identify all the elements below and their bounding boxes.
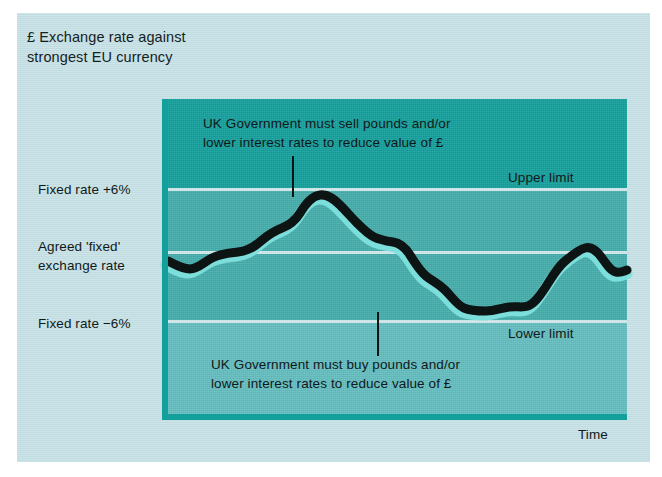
annotation-leader-line-top bbox=[292, 156, 294, 197]
y-axis-label-upper: Fixed rate +6% bbox=[38, 180, 131, 199]
x-axis-label: Time bbox=[578, 427, 608, 442]
annotation-sell-pounds: UK Government must sell pounds and/or lo… bbox=[203, 114, 451, 152]
figure-screenshot: £ Exchange rate against strongest EU cur… bbox=[0, 0, 662, 477]
annotation-buy-pounds: UK Government must buy pounds and/or low… bbox=[211, 355, 460, 393]
annotation-leader-line-bottom bbox=[377, 312, 379, 356]
y-axis-label-lower: Fixed rate −6% bbox=[38, 314, 131, 333]
y-axis-label-middle: Agreed 'fixed' exchange rate bbox=[38, 237, 125, 275]
lower-limit-label: Lower limit bbox=[508, 326, 574, 341]
x-axis-line bbox=[162, 414, 627, 420]
upper-limit-label: Upper limit bbox=[508, 170, 574, 185]
figure-title: £ Exchange rate against strongest EU cur… bbox=[27, 27, 186, 67]
y-axis-line bbox=[162, 99, 168, 420]
